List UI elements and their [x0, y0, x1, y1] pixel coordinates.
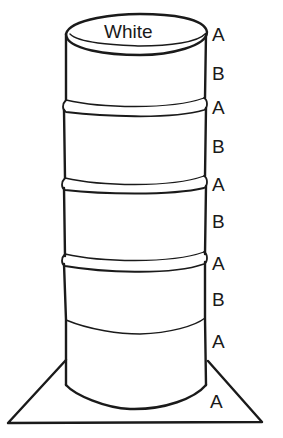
ridge-1 — [63, 98, 207, 116]
ridge-2 — [62, 176, 207, 194]
top-label: White — [104, 21, 153, 42]
ridge-3 — [62, 252, 207, 272]
tube-bottom — [66, 385, 206, 409]
stacked-tube-diagram: White A B A B A B A B A A — [0, 0, 283, 438]
side-label-a: A — [212, 331, 225, 352]
side-label-b: B — [212, 289, 225, 310]
tube-left-side — [64, 34, 66, 385]
side-label-a: A — [212, 174, 225, 195]
base-skirt — [8, 360, 262, 423]
tube-right-side — [205, 34, 206, 385]
bottom-band-line — [66, 318, 205, 334]
side-label-b: B — [212, 211, 225, 232]
side-label-b: B — [212, 136, 225, 157]
side-label-a: A — [212, 253, 225, 274]
side-label-b: B — [212, 63, 225, 84]
side-label-a: A — [210, 391, 223, 412]
side-label-a: A — [212, 97, 225, 118]
side-label-a: A — [212, 24, 225, 45]
